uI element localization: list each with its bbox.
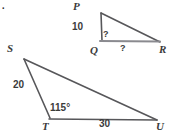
vertex-label-t: T xyxy=(42,121,49,132)
segment-pr xyxy=(101,13,160,42)
upper-triangle-pqr xyxy=(100,13,160,42)
angle-q-unknown: ? xyxy=(103,30,109,39)
vertex-label-s: S xyxy=(7,43,13,54)
side-length-st: 20 xyxy=(13,80,24,90)
vertex-label-u: U xyxy=(156,121,164,132)
vertex-label-p: P xyxy=(73,1,80,12)
segment-qr xyxy=(100,41,160,42)
angle-t-measure: 115° xyxy=(50,103,70,113)
segment-st xyxy=(24,59,50,118)
vertex-label-q: Q xyxy=(90,45,98,56)
segment-su xyxy=(24,59,157,120)
segment-pq xyxy=(101,13,102,41)
side-length-pq: 10 xyxy=(72,22,83,32)
geometry-diagram-svg xyxy=(0,0,171,135)
vertex-label-r: R xyxy=(159,44,166,55)
side-length-tu: 30 xyxy=(99,119,110,129)
side-length-qr-unknown: ? xyxy=(120,44,126,53)
lower-triangle-stu xyxy=(24,59,157,120)
